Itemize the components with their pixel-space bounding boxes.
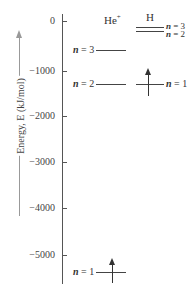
spin-up-arrow-icon [145,68,151,75]
tick-minus-2000 [63,116,67,117]
arrow-up-icon [16,30,22,38]
y-axis-label: Energy, E (kJ/mol) [15,76,26,156]
h-level-n2 [136,31,164,32]
tick-label-minus-3000: −3000 [29,157,55,167]
spin-up-arrow-icon [109,258,115,265]
tick-0 [63,21,67,22]
h-level-n1 [136,84,164,85]
h-level-n3 [136,27,164,28]
he-electron-spin [112,263,113,283]
tick-label-minus-4000: −4000 [29,203,55,213]
tick-label-minus-5000: −5000 [29,250,55,260]
he-level-n2 [96,84,126,85]
column-header-h: H [146,12,154,23]
he-level-n3 [96,50,126,51]
he-level-n1-label: n = 1 [73,267,94,277]
tick-label-minus-2000: −2000 [29,111,55,121]
tick-minus-5000 [63,255,67,256]
tick-label-minus-1000: −1000 [29,66,55,76]
he-level-n2-label: n = 2 [73,79,94,89]
tick-label-0: 0 [50,16,55,26]
tick-minus-4000 [63,208,67,209]
column-header-he-plus: He+ [104,12,121,26]
h-electron-spin [148,74,149,96]
he-level-n1 [96,272,126,273]
he-charge: + [117,13,121,21]
tick-minus-3000 [63,162,67,163]
he-level-n3-label: n = 3 [73,45,94,55]
y-axis [62,14,63,284]
tick-minus-1000 [63,71,67,72]
h-level-n2-label: n = 2 [166,29,185,39]
h-level-n1-label: n = 1 [166,79,187,89]
he-label: He [104,14,117,26]
